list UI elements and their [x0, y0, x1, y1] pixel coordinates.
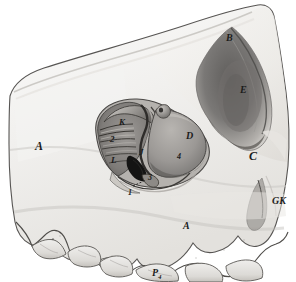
label-a-bottom: A — [183, 221, 190, 231]
tooth-crown — [226, 260, 263, 281]
label-3: 3 — [148, 174, 152, 182]
label-a-left: A — [35, 140, 43, 152]
label-p4-subscript: 4 — [158, 273, 162, 281]
label-gk: GK — [272, 196, 286, 206]
anatomical-figure: ABECDK2LJ431AGKP4 — [0, 0, 296, 282]
knob-foramen — [159, 107, 163, 112]
label-4-inner: 4 — [177, 153, 181, 161]
label-k: K — [119, 118, 125, 127]
label-1: 1 — [128, 189, 132, 197]
label-2: 2 — [110, 135, 115, 144]
tooth-crown — [68, 246, 101, 267]
illustration-canvas — [0, 0, 296, 282]
label-l: L — [111, 156, 117, 165]
label-e: E — [240, 85, 247, 95]
tooth-crown — [185, 263, 223, 282]
fossa-core-deep — [223, 74, 249, 126]
label-b: B — [226, 33, 233, 43]
label-j: J — [139, 148, 144, 157]
tooth-crown — [100, 256, 133, 277]
label-c: C — [249, 150, 257, 162]
label-d: D — [186, 131, 193, 141]
label-p4: P4 — [152, 268, 162, 281]
